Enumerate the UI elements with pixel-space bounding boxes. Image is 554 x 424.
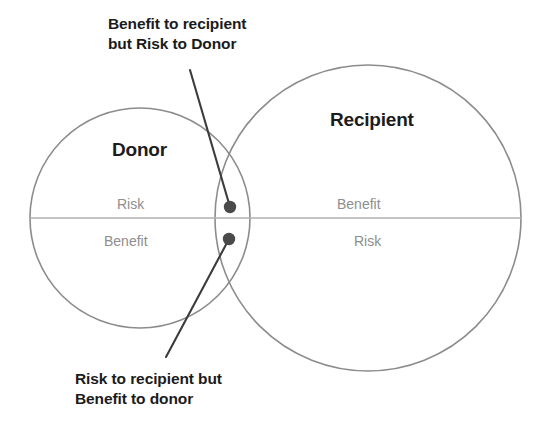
recipient-title: Recipient	[330, 108, 414, 132]
recipient-top-quadrant-label: Benefit	[337, 196, 381, 214]
recipient-bottom-quadrant-label: Risk	[354, 233, 381, 251]
top-callout-label: Benefit to recipientbut Risk to Donor	[108, 14, 246, 54]
donor-bottom-quadrant-label: Benefit	[104, 233, 148, 251]
bottom-callout-leader-line	[166, 239, 229, 357]
top-callout-leader-line	[190, 70, 230, 207]
venn-diagram: Benefit to recipientbut Risk to Donor Ri…	[0, 0, 554, 424]
bottom-callout-line2: Benefit to donor	[75, 390, 193, 407]
top-callout-line2: but Risk to Donor	[108, 35, 236, 52]
top-callout-line1: Benefit to recipient	[108, 15, 246, 32]
venn-canvas	[0, 0, 554, 424]
intersection-dot-upper	[224, 201, 236, 213]
donor-top-quadrant-label: Risk	[117, 196, 144, 214]
donor-title: Donor	[112, 138, 167, 162]
bottom-callout-line1: Risk to recipient but	[75, 370, 222, 387]
intersection-dot-lower	[223, 233, 235, 245]
bottom-callout-label: Risk to recipient butBenefit to donor	[75, 369, 222, 409]
